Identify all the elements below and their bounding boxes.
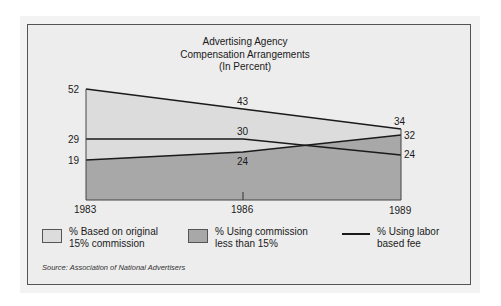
label-labor-1986: 30 [237, 126, 249, 137]
legend-label: 15% commission [69, 238, 158, 250]
label-labor-1983: 29 [68, 134, 80, 145]
legend-label: % Based on original [69, 226, 158, 238]
legend-swatch-light [42, 229, 62, 243]
legend-label: less than 15% [215, 238, 308, 250]
legend-label: % Using commission [215, 226, 308, 238]
legend-item-labor-fee: % Using labor based fee [342, 226, 439, 250]
label-labor-1989: 24 [404, 149, 416, 160]
label-reduced-1989: 32 [404, 130, 416, 141]
label-commission-1989: 34 [394, 116, 406, 127]
legend-line-swatch [342, 233, 370, 235]
x-tick-1989: 1989 [389, 205, 412, 216]
legend-swatch-dark [188, 229, 208, 243]
x-tick-1983: 1983 [74, 204, 97, 215]
source-note: Source: Association of National Advertis… [42, 263, 185, 272]
legend-item-original-commission: % Based on original 15% commission [42, 226, 158, 250]
legend-label: based fee [377, 238, 439, 250]
x-tick-1986: 1986 [231, 204, 254, 215]
label-reduced-1983: 19 [68, 155, 80, 166]
legend-item-reduced-commission: % Using commission less than 15% [188, 226, 308, 250]
label-commission-1983: 52 [68, 84, 80, 95]
legend-label: % Using labor [377, 226, 439, 238]
plot-area: 52 43 34 29 30 24 19 24 32 1983 1986 198… [0, 0, 501, 306]
label-commission-1986: 43 [237, 96, 249, 107]
label-reduced-1986: 24 [237, 156, 249, 167]
